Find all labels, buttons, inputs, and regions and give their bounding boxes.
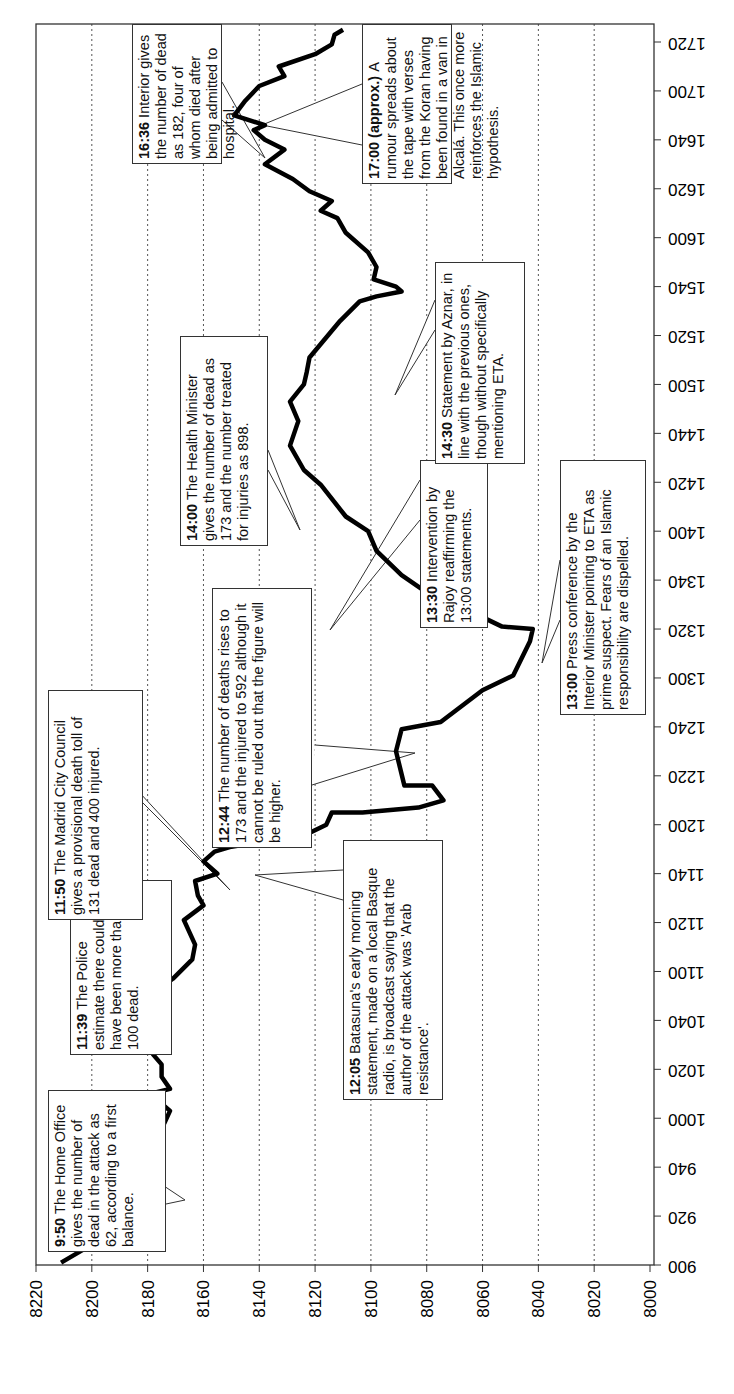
- annotation-time: 13:30: [424, 582, 440, 623]
- annotation-box: 13:00 Press conference by the Interior M…: [560, 460, 646, 715]
- time-tick-label: 1040: [668, 1012, 706, 1031]
- time-tick-label: 1020: [668, 1061, 706, 1080]
- time-tick-label: 940: [668, 1159, 696, 1178]
- annotation-box: 12:44 The number of deaths rises to 173 …: [212, 588, 312, 848]
- annotation-box: 9:50 The Home Office gives the number of…: [48, 1090, 166, 1252]
- annotation-time: 17:00 (approx.): [366, 72, 382, 179]
- value-tick-label: 8000: [641, 1280, 660, 1318]
- time-tick-label: 900: [668, 1257, 696, 1276]
- annotation-time: 9:50: [52, 1214, 68, 1247]
- time-tick-label: 1620: [668, 180, 706, 199]
- time-tick-label: 1340: [668, 572, 706, 591]
- value-tick-label: 8040: [529, 1280, 548, 1318]
- value-tick-label: 8140: [250, 1280, 269, 1318]
- time-tick-label: 1300: [668, 669, 706, 688]
- annotation-time: 12:44: [216, 802, 232, 843]
- annotation-time: 14:00: [184, 500, 200, 541]
- annotation-text: A rumour spreads about the tape with ver…: [366, 32, 501, 179]
- time-tick-label: 1140: [668, 865, 705, 884]
- annotation-box: 13:30 Intervention by Rajoy reaffirming …: [420, 460, 488, 628]
- time-tick-label: 1500: [668, 376, 706, 395]
- annotation-time: 11:39: [74, 1010, 90, 1050]
- annotation-box: 12:05 Batasuna's early morning statement…: [343, 840, 443, 1100]
- value-tick-label: 8020: [585, 1280, 604, 1318]
- time-tick-label: 1200: [668, 816, 706, 835]
- value-tick-label: 8100: [362, 1280, 381, 1318]
- annotation-time: 12:05: [347, 1054, 363, 1095]
- annotation-time: 16:36: [136, 118, 152, 159]
- annotation-time: 11:50: [52, 875, 68, 915]
- time-tick-label: 1520: [668, 327, 706, 346]
- value-tick-label: 8200: [83, 1280, 102, 1318]
- time-tick-label: 1100: [668, 963, 705, 982]
- time-tick-label: 1420: [668, 474, 706, 493]
- value-tick-label: 8120: [306, 1280, 325, 1318]
- annotation-time: 13:00: [564, 669, 580, 710]
- time-tick-label: 1000: [668, 1110, 706, 1129]
- time-tick-label: 1440: [668, 425, 706, 444]
- value-tick-label: 8220: [27, 1280, 46, 1318]
- value-tick-label: 8080: [418, 1280, 437, 1318]
- value-tick-label: 8060: [474, 1280, 493, 1318]
- time-tick-label: 1400: [668, 523, 706, 542]
- time-tick-label: 1720: [668, 34, 706, 53]
- time-tick-label: 1120: [668, 914, 705, 933]
- annotation-box: 16:36 Interior gives the number of dead …: [132, 24, 222, 164]
- time-tick-label: 1320: [668, 621, 706, 640]
- value-tick-label: 8180: [139, 1280, 158, 1318]
- time-tick-label: 1640: [668, 131, 706, 150]
- annotation-box: 17:00 (approx.) A rumour spreads about t…: [362, 24, 452, 184]
- annotation-time: 14:30: [439, 418, 455, 459]
- annotation-box: 11:50 The Madrid City Council gives a pr…: [48, 690, 143, 920]
- time-tick-label: 920: [668, 1208, 696, 1227]
- time-tick-label: 1600: [668, 229, 706, 248]
- annotation-box: 14:00 The Health Minister gives the numb…: [180, 336, 268, 546]
- time-tick-label: 1220: [668, 767, 706, 786]
- time-tick-label: 1240: [668, 718, 706, 737]
- time-tick-label: 1540: [668, 278, 706, 297]
- value-tick-label: 8160: [194, 1280, 213, 1318]
- time-tick-label: 1700: [668, 82, 706, 101]
- annotation-box: 14:30 Statement by Aznar, in line with t…: [435, 262, 525, 464]
